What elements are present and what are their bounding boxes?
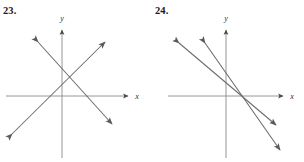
page-root: 23. x y 24. <box>0 0 304 162</box>
exercise-panel-24: 24. x y <box>152 0 304 162</box>
x-axis-label-23: x <box>134 92 139 101</box>
x-axis-label-24: x <box>289 92 294 101</box>
y-axis-label-24: y <box>223 14 228 23</box>
graph-23: x y <box>0 0 152 162</box>
exercise-panel-23: 23. x y <box>0 0 152 162</box>
line-positive-slope-23 <box>12 42 105 134</box>
line-lower-parallel-24 <box>205 43 280 150</box>
graph-24: x y <box>152 0 304 162</box>
y-axis-label-23: y <box>59 14 64 23</box>
line-upper-parallel-24 <box>179 43 276 125</box>
line-negative-slope-23 <box>38 42 112 124</box>
